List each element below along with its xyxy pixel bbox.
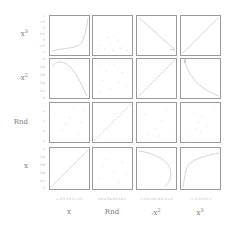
panel-rnd-vs-neg-x2 xyxy=(136,102,177,143)
ytick: 0.8 xyxy=(33,156,45,159)
ytick: 0 xyxy=(33,187,45,190)
ytick: 0 xyxy=(33,39,45,42)
ytick: -1 xyxy=(33,120,45,123)
ytick: 0.2 xyxy=(33,180,45,183)
ytick: -1 xyxy=(33,51,45,54)
ytick: 0.4 xyxy=(33,82,45,85)
col-label-neg-x2: -x2 xyxy=(136,207,176,217)
panel-rnd-vs-x3 xyxy=(180,102,221,143)
col-label-x3: x3 xyxy=(180,207,220,217)
ytick: -1 xyxy=(33,110,45,113)
panel-x3-vs-x xyxy=(49,15,90,56)
ytick: 0 xyxy=(33,58,45,61)
col-label-rnd: Rnd xyxy=(92,208,132,216)
panel-neg-x2-vs-x xyxy=(49,58,90,99)
ytick: -1 xyxy=(33,130,45,133)
panel-x-vs-x xyxy=(49,147,90,190)
ytick: 1.5 xyxy=(33,21,45,24)
panel-neg-x2-vs-x3 xyxy=(180,58,221,99)
panel-x-vs-x3 xyxy=(180,147,221,190)
ytick: 0.6 xyxy=(33,74,45,77)
ytick: 0.5 xyxy=(33,33,45,36)
ytick: 0 xyxy=(33,97,45,100)
ytick: 1 xyxy=(33,15,45,18)
row-label-rnd: Rnd xyxy=(2,118,28,126)
panel-rnd-vs-x xyxy=(49,102,90,143)
ytick: 0.4 xyxy=(33,172,45,175)
row-label-x3: x3 xyxy=(2,28,28,38)
panel-x-vs-neg-x2 xyxy=(136,147,177,190)
ytick: 0.2 xyxy=(33,90,45,93)
col-label-x: x xyxy=(49,208,89,216)
panel-x3-vs-rnd xyxy=(92,15,133,56)
row-label-neg-x2: -x2 xyxy=(2,72,28,82)
panel-neg-x2-vs-rnd xyxy=(92,58,133,99)
panel-x3-vs-neg-x2 xyxy=(136,15,177,56)
ytick: 0 xyxy=(33,27,45,30)
col-ticks-rnd: 0 0.2 0.4 0.6 0.8 1 xyxy=(92,197,132,201)
col-ticks-x: -1,-0.5 0 0.5 1 1.5 xyxy=(49,197,89,201)
panel-rnd-vs-rnd xyxy=(92,102,133,143)
row-label-x: x xyxy=(2,162,28,170)
ytick: 0.6 xyxy=(33,164,45,167)
panel-neg-x2-vs-neg-x2 xyxy=(136,58,177,99)
panel-x3-vs-x3 xyxy=(180,15,221,56)
ytick: 1 xyxy=(33,148,45,151)
ytick: -0.5 xyxy=(33,45,45,48)
panel-x-vs-rnd xyxy=(92,147,133,190)
col-ticks-x3: -1 -0.5 0 0.5 1 xyxy=(180,197,221,201)
col-ticks-neg-x2: -1 -0.8 -0.6 -0.4 -0.2 0 xyxy=(136,197,176,201)
ytick: 0.8 xyxy=(33,66,45,69)
ytick: -1 xyxy=(33,140,45,143)
